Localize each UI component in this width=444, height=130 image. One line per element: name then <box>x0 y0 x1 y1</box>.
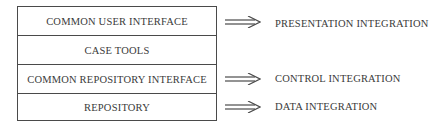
layer-label: REPOSITORY <box>84 102 150 113</box>
layer-label: COMMON REPOSITORY INTERFACE <box>27 74 207 85</box>
layer-label: CASE TOOLS <box>85 45 150 56</box>
double-arrow-right-icon <box>225 16 261 28</box>
layer-common-repository-interface: COMMON REPOSITORY INTERFACE <box>18 64 216 93</box>
layer-label: COMMON USER INTERFACE <box>46 16 188 27</box>
double-arrow-right-icon <box>225 73 261 85</box>
data-integration-label: DATA INTEGRATION <box>275 101 377 112</box>
layer-case-tools: CASE TOOLS <box>18 35 216 64</box>
double-arrow-right-icon <box>225 101 261 113</box>
layer-common-user-interface: COMMON USER INTERFACE <box>18 7 216 35</box>
control-integration-label: CONTROL INTEGRATION <box>275 73 401 84</box>
layer-repository: REPOSITORY <box>18 93 216 120</box>
layer-stack: COMMON USER INTERFACE CASE TOOLS COMMON … <box>17 6 217 121</box>
presentation-integration-label: PRESENTATION INTEGRATION <box>275 18 429 29</box>
